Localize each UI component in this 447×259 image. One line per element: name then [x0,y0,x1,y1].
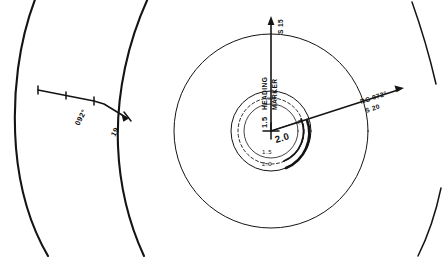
center-scale-diagonal-label: 2.0 [274,130,291,145]
polar-radar-display: S 15 HEADING MARKER RC 072° S 20 1.5 2.0… [174,16,404,228]
figure-canvas: 092° 19 [0,0,447,259]
ring-label-inner: 1.5 [262,149,272,155]
reference-course-label: RC 072° [359,90,388,105]
reference-course-speed-label: S 20 [364,103,381,114]
heading-marker-arrow [268,16,275,25]
far-right-arc-top [412,2,436,84]
heading-speed-label: S 15 [277,19,284,34]
center-scale-vertical-label: 1.5 [260,117,269,128]
r-point-label: r [274,95,276,101]
far-right-arc-bottom [418,188,441,256]
radar-plot-figure: 092° 19 [0,0,447,259]
heading-marker-label-heading: HEADING [261,77,268,110]
ring-label-outer: 2.0 [262,161,272,167]
inner-range-arc [118,0,150,256]
left-distance-label: 19 [109,126,121,138]
center-to-m-connector [271,122,298,131]
outer-range-arc [15,0,48,256]
left-bearing-label: 092° [73,108,89,127]
